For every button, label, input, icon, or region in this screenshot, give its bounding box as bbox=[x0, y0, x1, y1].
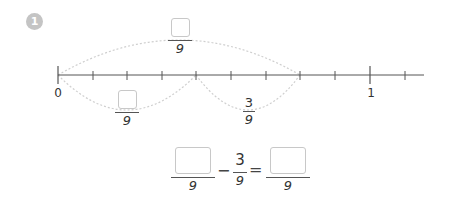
zero-label: 0 bbox=[54, 86, 62, 100]
equals-sign: = bbox=[249, 160, 262, 179]
bottom-left-arc-fraction: 9 bbox=[115, 90, 139, 128]
answer-box[interactable] bbox=[118, 90, 137, 109]
equation-term2: 3 9 bbox=[233, 152, 247, 188]
answer-box[interactable] bbox=[175, 147, 211, 174]
one-label: 1 bbox=[367, 86, 375, 100]
answer-box[interactable] bbox=[171, 18, 190, 37]
answer-box[interactable] bbox=[270, 147, 306, 174]
top-arc-fraction: 9 bbox=[168, 18, 192, 56]
equation-term1: 9 bbox=[171, 147, 215, 193]
equation-result: 9 bbox=[266, 147, 310, 193]
bottom-right-arc-fraction: 3 9 bbox=[243, 96, 255, 127]
minus-sign: − bbox=[217, 161, 230, 180]
